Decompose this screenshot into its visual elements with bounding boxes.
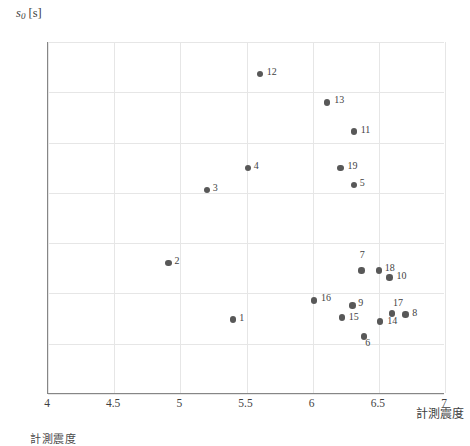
gridline-vertical [114,42,115,393]
caption-text: 計測震度 [30,433,76,446]
x-axis-tick-label: 6 [292,397,332,409]
data-point-label: 8 [412,307,417,318]
data-point-marker [324,99,330,105]
gridline-vertical [247,42,248,393]
data-point-marker [337,165,343,171]
data-point-label: 15 [349,311,359,322]
data-point-label: 10 [396,270,406,281]
data-point-label: 19 [347,160,357,171]
data-point-label: 2 [174,255,179,266]
y-axis-title: s0 [s] [16,6,42,21]
data-point-marker [386,274,392,280]
data-point-marker [311,297,317,303]
data-point-label: 13 [334,94,344,105]
x-axis-tick-label: 5.5 [226,397,266,409]
y-axis-unit: [s] [29,6,42,20]
data-point-label: 1 [239,312,244,323]
gridline-vertical [48,42,49,393]
data-point-label: 16 [321,292,331,303]
data-point-label: 6 [365,337,370,348]
gridline-vertical [180,42,181,393]
plot-area: 12345678910111213141516171819 [47,42,444,394]
x-axis-tick-label: 4 [27,397,67,409]
data-point-label: 5 [360,177,365,188]
gridline-vertical [379,42,380,393]
data-point-marker [339,314,345,320]
data-point-marker [165,260,171,266]
y-axis-subscript: 0 [21,11,26,21]
data-point-label: 9 [358,297,363,308]
data-point-marker [389,310,395,316]
x-axis-tick-label: 4.5 [93,397,133,409]
data-point-label: 17 [393,297,403,308]
data-point-marker [230,316,236,322]
data-point-label: 11 [361,124,371,135]
data-point-label: 7 [360,249,365,260]
data-point-marker [351,182,357,188]
gridline-vertical [313,42,314,393]
x-axis-tick-label: 7 [424,397,464,409]
gridline-horizontal [48,394,444,395]
data-point-marker [377,318,383,324]
x-axis-tick-label: 5 [159,397,199,409]
data-point-marker [204,187,210,193]
data-point-marker [245,165,251,171]
gridline-vertical [445,42,446,393]
data-point-marker [349,302,355,308]
data-point-marker [351,128,357,134]
data-point-marker [376,267,382,273]
data-point-label: 12 [267,66,277,77]
data-point-label: 4 [254,160,259,171]
data-point-marker [257,71,263,77]
x-axis-tick-label: 6.5 [358,397,398,409]
data-point-label: 18 [385,262,395,273]
figure-caption: 計測震度 [0,430,470,446]
data-point-marker [358,267,364,273]
data-point-label: 3 [213,182,218,193]
data-point-marker [402,311,408,317]
